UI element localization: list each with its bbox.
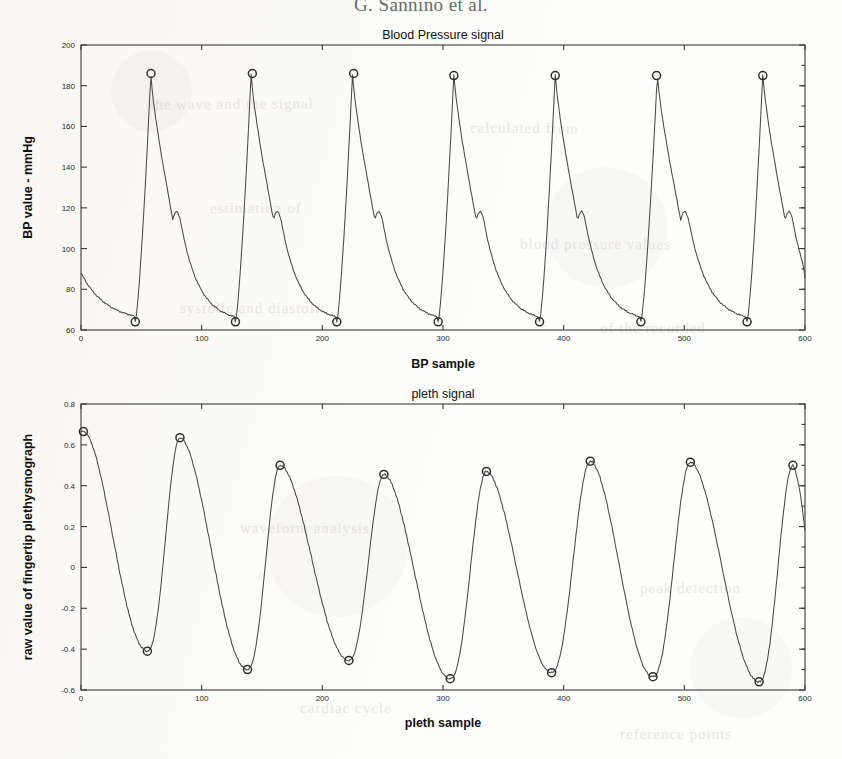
- x-tick-label: 600: [798, 334, 812, 343]
- y-tick-label: -0.6: [61, 686, 75, 695]
- plot-frame-pleth: [81, 404, 805, 690]
- x-tick-label: 0: [79, 694, 84, 703]
- y-tick-label: 0: [71, 563, 76, 572]
- maximum-marker: [248, 70, 256, 78]
- x-tick-label: 300: [436, 334, 450, 343]
- x-tick-label: 100: [195, 334, 209, 343]
- y-tick-label: 0.4: [64, 482, 76, 491]
- y-tick-label: 0.2: [64, 523, 76, 532]
- x-tick-label: 600: [798, 694, 812, 703]
- minimum-marker: [548, 669, 556, 677]
- y-tick-label: -0.4: [61, 645, 75, 654]
- plot-title-pleth: pleth signal: [411, 387, 474, 401]
- y-tick-label: 140: [62, 163, 76, 172]
- y-tick-label: 120: [62, 204, 76, 213]
- x-tick-label: 0: [79, 334, 84, 343]
- y-tick-label: 0.8: [64, 400, 76, 409]
- x-axis-label-bp: BP sample: [411, 357, 475, 371]
- x-tick-label: 500: [678, 694, 692, 703]
- y-tick-label: 160: [62, 122, 76, 131]
- y-tick-label: 100: [62, 245, 76, 254]
- y-axis-label-pleth: raw value of fingertip plethysmograph: [21, 434, 35, 660]
- plot-title-bp: Blood Pressure signal: [382, 28, 504, 42]
- y-tick-label: 0.6: [64, 441, 76, 450]
- y-tick-label: 60: [66, 326, 75, 335]
- figure-bp-and-pleth: 0100200300400500600608010012014016018020…: [0, 0, 842, 759]
- signal-path-pleth: [81, 431, 805, 683]
- y-tick-label: 180: [62, 82, 76, 91]
- chart-pleth: 0100200300400500600-0.6-0.4-0.200.20.40.…: [21, 387, 812, 730]
- y-tick-label: 80: [66, 285, 75, 294]
- y-tick-label: -0.2: [61, 604, 75, 613]
- maximum-marker: [350, 70, 358, 78]
- x-tick-label: 400: [557, 334, 571, 343]
- x-tick-label: 500: [678, 334, 692, 343]
- y-axis-label-bp: BP value - mmHg: [21, 136, 35, 239]
- plot-frame-bp: [81, 45, 805, 330]
- signal-path-bp: [81, 74, 805, 322]
- maximum-marker: [653, 72, 661, 80]
- figure-svg: 0100200300400500600608010012014016018020…: [0, 0, 842, 759]
- x-tick-label: 300: [436, 694, 450, 703]
- chart-bp: 0100200300400500600608010012014016018020…: [21, 28, 812, 371]
- x-tick-label: 200: [316, 694, 330, 703]
- x-axis-label-pleth: pleth sample: [405, 716, 481, 730]
- x-tick-label: 100: [195, 694, 209, 703]
- x-tick-label: 400: [557, 694, 571, 703]
- y-tick-label: 200: [62, 41, 76, 50]
- x-tick-label: 200: [316, 334, 330, 343]
